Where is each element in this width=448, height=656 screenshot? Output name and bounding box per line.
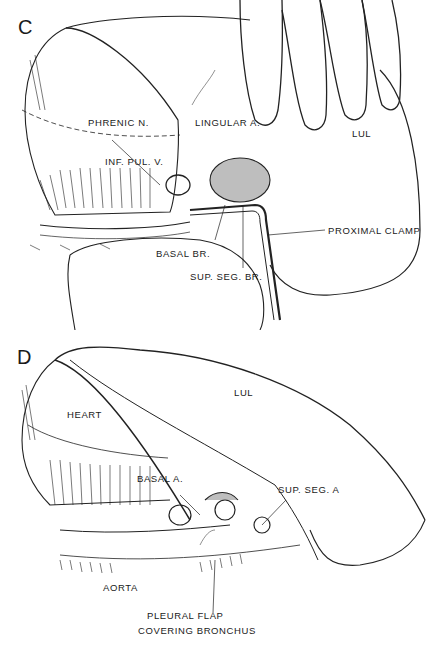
label-aorta: AORTA xyxy=(103,582,138,593)
label-covering-bronchus: COVERING BRONCHUS xyxy=(138,625,256,636)
label-inf-pul-vein: INF. PUL. V. xyxy=(105,156,164,167)
panel-c: C PHRENIC N. LINGULAR A. LUL INF. PUL. V… xyxy=(0,0,448,330)
label-pleural-flap: PLEURAL FLAP xyxy=(147,610,224,621)
label-proximal-clamp: PROXIMAL CLAMP xyxy=(328,225,421,236)
label-lul: LUL xyxy=(234,387,253,398)
label-lingular-artery: LINGULAR A. xyxy=(195,117,260,128)
label-lul: LUL xyxy=(352,128,371,139)
label-basal-artery: BASAL A. xyxy=(137,473,183,484)
panel-letter-d: D xyxy=(17,346,31,369)
label-sup-seg-artery: SUP. SEG. A xyxy=(278,484,339,495)
panel-d-illustration xyxy=(0,330,448,656)
label-sup-seg-bronchus: SUP. SEG. BR. xyxy=(190,271,263,282)
label-heart: HEART xyxy=(67,409,102,420)
panel-letter-c: C xyxy=(18,16,32,39)
panel-d: D HEART LUL BASAL A. SUP. SEG. A AORTA P… xyxy=(0,330,448,656)
label-basal-bronchus: BASAL BR. xyxy=(156,248,210,259)
label-phrenic-nerve: PHRENIC N. xyxy=(88,117,149,128)
